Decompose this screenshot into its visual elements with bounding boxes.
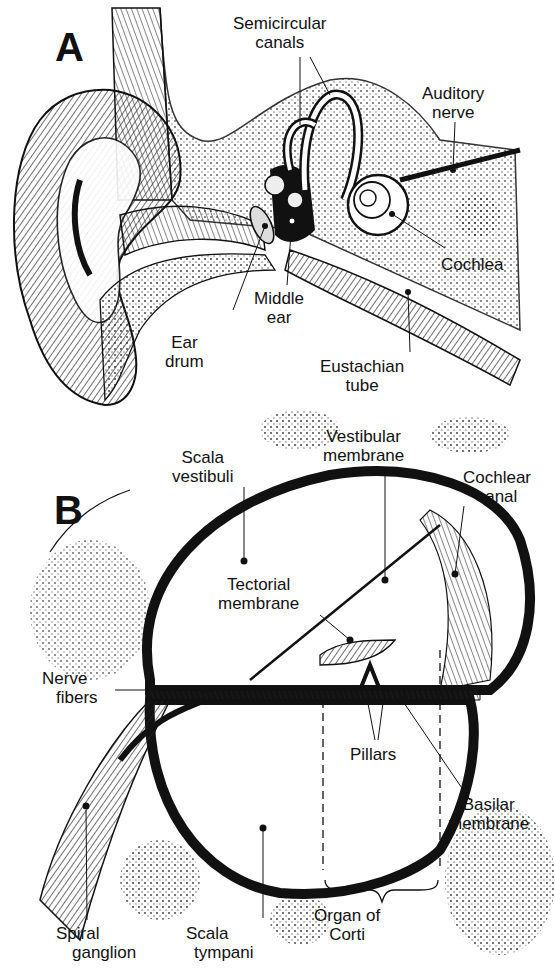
label-eustachian-tube: Eustachian tube [320,357,404,395]
label-cochlea: Cochlea [441,255,503,274]
label-line: Basilar [448,795,529,814]
label-vestibular-membrane: Vestibular membrane [323,427,404,465]
label-scala-tympani: Scala tympani [186,924,254,962]
label-line: membrane [323,446,404,465]
label-line: membrane [448,814,529,833]
label-middle-ear: Middle ear [254,289,304,327]
label-tectorial-membrane: Tectorial membrane [218,575,299,613]
label-line: Auditory [422,84,484,103]
label-line: canal [463,487,531,506]
label-line: ganglion [56,943,136,962]
label-line: fibers [42,688,98,707]
label-line: tube [320,376,404,395]
label-line: Organ of [314,906,380,925]
panel-label-b: B [54,490,83,530]
label-line: Vestibular [323,427,404,446]
label-nerve-fibers: Nerve fibers [42,669,98,707]
label-ear-drum: Ear drum [165,333,204,371]
label-line: Ear [165,333,204,352]
label-scala-vestibuli: Scala vestibuli [172,448,233,486]
label-basilar-membrane: Basilar membrane [448,795,529,833]
label-line: Scala [172,448,233,467]
label-line: Corti [314,925,380,944]
label-line: canals [233,33,327,52]
label-line: Middle [254,289,304,308]
label-line: Tectorial [218,575,299,594]
label-line: Nerve [42,669,98,688]
label-line: drum [165,352,204,371]
label-organ-of-corti: Organ of Corti [314,906,380,944]
panel-label-a: A [55,27,84,67]
label-line: Semicircular [233,14,327,33]
label-line: Spiral [56,924,136,943]
label-auditory-nerve: Auditory nerve [422,84,484,122]
label-line: Pillars [350,745,396,764]
label-pillars: Pillars [350,745,396,764]
label-spiral-ganglion: Spiral ganglion [56,924,136,962]
label-line: vestibuli [172,467,233,486]
label-line: Cochlea [441,255,503,274]
label-line: Eustachian [320,357,404,376]
label-line: ear [254,308,304,327]
label-line: nerve [422,103,484,122]
label-line: membrane [218,594,299,613]
label-line: tympani [186,943,254,962]
label-line: Scala [186,924,254,943]
panel-a-drawing [14,8,520,405]
label-cochlear-canal: Cochlear canal [463,468,531,506]
label-line: Cochlear [463,468,531,487]
label-semicircular-canals: Semicircular canals [233,14,327,52]
